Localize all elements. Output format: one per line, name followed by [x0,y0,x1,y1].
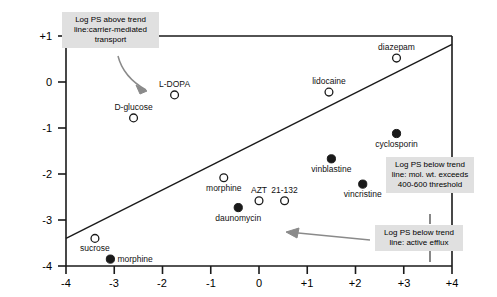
x-tick-label-9: +4 [436,278,468,289]
point-label-vinblastine: vinblastine [295,165,367,174]
scatter-plot-figure: +1 0 -1 -2 -3 -4 -4 -3 -2 -1 0 +1 +2 +3 … [0,0,497,297]
data-point-21-132 [281,197,289,205]
point-label-cyclosporin: cyclosporin [361,140,433,149]
data-point-azt [255,197,263,205]
x-tick-label-3: -2 [146,278,178,289]
point-label-21-132: 21-132 [249,186,321,195]
x-tick-label-5: 0 [243,278,275,289]
data-point-l-dopa [171,91,179,99]
y-tick-label-5: -3 [18,215,52,226]
data-point-lidocaine [325,88,333,96]
data-point-vinblastine [327,155,335,163]
annotation-below-trend-efflux: Log PS below trend line: active efflux [375,225,463,251]
point-label-d-glucose: D-glucose [98,103,170,112]
x-tick-label-8: +3 [388,278,420,289]
x-tick-label-6: +1 [291,278,323,289]
point-label-sucrose: sucrose [59,244,131,253]
y-tick-label-6: -4 [18,261,52,272]
annotation-above-trend: Log PS above trend line:carrier-mediated… [62,12,159,48]
data-point-d-glucose [130,114,138,122]
arrowhead-efflux [286,228,299,238]
data-point-sucrose [91,235,99,243]
y-tick-label-1: +1 [18,31,52,42]
y-tick-label-3: -1 [18,123,52,134]
y-tick-label-4: -2 [18,169,52,180]
point-label-lidocaine: lidocaine [293,77,365,86]
data-point-cyclosporin [392,129,400,137]
point-label-daunomycin: daunomycin [202,214,274,223]
data-point-diazepam [393,54,401,62]
data-point-daunomycin [234,203,242,211]
data-point-vincristine [359,180,367,188]
data-point-morphine [106,255,114,263]
annotation-below-trend-molwt: Log PS below trend line: mol. wt. exceed… [386,157,474,193]
point-label-diazepam: diazepam [361,43,433,52]
x-tick-label-1: -4 [50,278,82,289]
x-tick-marks [66,266,452,274]
y-tick-label-2: 0 [18,77,52,88]
arrow-efflux [288,232,370,240]
x-tick-label-2: -3 [98,278,130,289]
point-label-l-dopa: L-DOPA [139,80,211,89]
x-tick-label-4: -1 [195,278,227,289]
data-point-morphine [220,174,228,182]
point-label-morphine: morphine [117,255,189,264]
x-tick-label-7: +2 [339,278,371,289]
y-tick-marks [58,36,66,266]
